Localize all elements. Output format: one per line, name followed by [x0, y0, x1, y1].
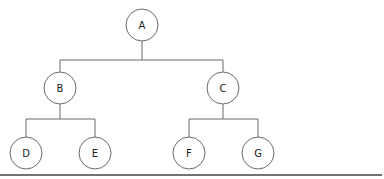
node-f-label: F: [186, 148, 192, 159]
edges-b: [26, 104, 95, 137]
node-g: G: [242, 137, 274, 169]
node-d-label: D: [22, 148, 30, 159]
node-a: A: [126, 9, 158, 41]
node-b-label: B: [57, 83, 64, 94]
edges-a: [60, 41, 223, 72]
edges-c: [189, 104, 258, 137]
node-e-label: E: [92, 148, 98, 159]
node-e: E: [79, 137, 111, 169]
node-b: B: [44, 72, 76, 104]
node-c-label: C: [220, 83, 227, 94]
node-f: F: [173, 137, 205, 169]
node-a-label: A: [139, 20, 146, 31]
node-g-label: G: [254, 148, 262, 159]
node-c: C: [207, 72, 239, 104]
tree-diagram: A B C D E F G: [0, 0, 384, 179]
node-d: D: [10, 137, 42, 169]
